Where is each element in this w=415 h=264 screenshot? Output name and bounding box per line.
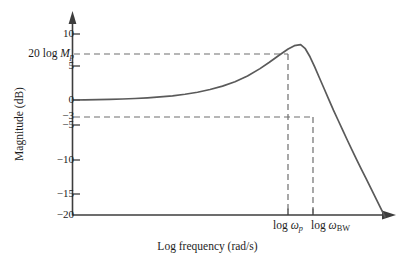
xtick-label-bandwidth-frequency: log ωBW [311,220,399,233]
wbw-prefix: log [311,219,329,231]
ytick-label-0: 0 [69,94,75,105]
peak-gain-symbol: M [60,47,70,59]
peak-gain-prefix: 20 log [28,47,60,59]
ytick-label-minus15: −15 [57,188,74,199]
ytick-label-peak-gain: 20 log Mp [28,47,74,61]
wp-subscript: p [299,224,303,233]
y-axis-title: Magnitude (dB) [13,74,25,174]
ytick-label-5: 5 [69,60,75,71]
ytick-label-minus10: −10 [57,154,74,165]
ytick-label-minus5: −5 [62,119,74,130]
x-axis-ticks [288,209,313,216]
wp-prefix: log [273,219,291,231]
ytick-label-10: 10 [63,28,74,39]
wbw-symbol: ω [329,219,337,231]
wp-symbol: ω [291,219,299,231]
x-axis [73,211,397,220]
ytick-label-minus20: −20 [57,209,74,220]
magnitude-response-curve [73,45,386,217]
y-axis-arrow-icon [69,11,77,24]
peak-gain-subscript: p [70,52,74,61]
x-axis-title: Log frequency (rad/s) [0,240,415,252]
wbw-subscript: BW [337,224,350,233]
frequency-response-figure: 10 5 0 −3 −5 −10 −15 −20 20 log Mp log ω… [0,0,415,264]
